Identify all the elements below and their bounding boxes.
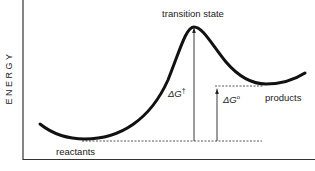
arrowhead-icon — [215, 88, 219, 94]
y-axis-label: ENERGY — [4, 51, 14, 104]
free-energy-label: ΔGo — [222, 94, 241, 105]
products-label: products — [265, 92, 302, 103]
transition-state-label: transition state — [162, 8, 224, 19]
reactants-label: reactants — [56, 146, 95, 157]
activation-energy-label: ΔG† — [167, 87, 186, 99]
reaction-curve — [40, 27, 305, 139]
energy-diagram: ENERGY transition state reactants produc… — [0, 0, 315, 171]
